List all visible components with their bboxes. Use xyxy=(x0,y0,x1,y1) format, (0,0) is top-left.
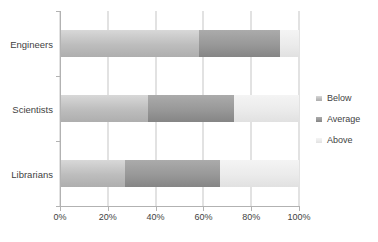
y-axis-tick xyxy=(56,11,60,12)
value-axis-labels: 0%20%40%60%80%100% xyxy=(60,212,299,226)
x-axis-tick xyxy=(108,207,109,211)
y-axis-tick xyxy=(56,141,60,142)
x-axis-tick xyxy=(251,207,252,211)
x-tick-label: 80% xyxy=(242,212,260,222)
y-axis-tick xyxy=(56,206,60,207)
legend-item-below: Below xyxy=(316,92,360,104)
x-tick-label: 60% xyxy=(194,212,212,222)
bar-scientists xyxy=(60,95,299,122)
legend-label: Below xyxy=(327,93,352,103)
legend: BelowAverageAbove xyxy=(316,92,360,155)
x-tick-label: 0% xyxy=(53,212,66,222)
bar-segment-average xyxy=(148,95,234,122)
category-label-scientists: Scientists xyxy=(12,103,53,114)
legend-item-above: Above xyxy=(316,134,360,146)
legend-marker-icon xyxy=(316,96,322,101)
y-axis-line xyxy=(60,11,61,207)
x-axis-tick xyxy=(60,207,61,211)
x-tick-label: 20% xyxy=(99,212,117,222)
category-label-engineers: Engineers xyxy=(10,38,53,49)
legend-label: Above xyxy=(327,135,353,145)
bar-segment-above xyxy=(220,160,299,187)
bar-segment-above xyxy=(280,30,299,57)
bar-segment-average xyxy=(199,30,280,57)
category-label-librarians: Librarians xyxy=(11,168,53,179)
x-tick-label: 40% xyxy=(147,212,165,222)
x-tick-label: 100% xyxy=(287,212,310,222)
stacked-bar-chart: EngineersScientistsLibrarians 0%20%40%60… xyxy=(0,0,378,242)
bar-segment-below xyxy=(60,160,125,187)
x-axis-tick xyxy=(203,207,204,211)
x-axis-tick xyxy=(156,207,157,211)
legend-label: Average xyxy=(327,114,360,124)
bar-segment-below xyxy=(60,95,148,122)
legend-marker-icon xyxy=(316,117,322,122)
plot-area xyxy=(60,11,299,206)
bar-segment-average xyxy=(125,160,221,187)
bar-engineers xyxy=(60,30,299,57)
legend-item-average: Average xyxy=(316,113,360,125)
bar-segment-above xyxy=(234,95,299,122)
x-axis-line xyxy=(60,206,300,207)
legend-marker-icon xyxy=(316,138,322,143)
x-axis-tick xyxy=(299,207,300,211)
y-axis-tick xyxy=(56,76,60,77)
category-axis-labels: EngineersScientistsLibrarians xyxy=(0,11,56,206)
bar-segment-below xyxy=(60,30,199,57)
bar-librarians xyxy=(60,160,299,187)
